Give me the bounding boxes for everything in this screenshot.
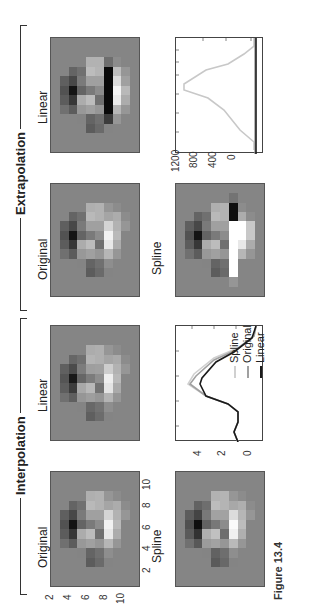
heatmap-cell <box>121 548 130 558</box>
heatmap-cell <box>104 203 113 212</box>
heatmap-cell <box>202 212 211 221</box>
heatmap-cell <box>220 287 229 296</box>
heatmap-cell <box>220 231 229 240</box>
heatmap-cell <box>194 249 203 258</box>
heatmap-cell <box>121 268 130 277</box>
heatmap-cell <box>121 76 130 86</box>
heatmap-cell <box>69 364 78 374</box>
heatmap-cell <box>69 345 78 355</box>
y-tick: 2 <box>44 594 55 600</box>
heatmap-cell <box>95 277 104 286</box>
heatmap-cell <box>194 510 203 520</box>
heatmap-cell <box>121 558 130 568</box>
heatmap-cell <box>211 501 220 511</box>
heatmap-cell <box>60 577 69 587</box>
heatmap-cell <box>104 355 113 365</box>
heatmap-cell <box>130 326 139 336</box>
heatmap-cell <box>176 221 185 230</box>
heatmap-cell <box>77 393 86 403</box>
heatmap-cell <box>69 114 78 124</box>
heatmap-cell <box>246 221 255 230</box>
heatmap-cell <box>104 567 113 577</box>
heatmap-cell <box>130 67 139 77</box>
heatmap-cell <box>211 472 220 482</box>
heatmap-cell <box>229 501 238 511</box>
heatmap-cell <box>229 249 238 258</box>
heatmap-cell <box>176 482 185 492</box>
heatmap-cell <box>238 221 247 230</box>
heatmap-cell <box>176 212 185 221</box>
heatmap-cell <box>229 268 238 277</box>
heatmap-cell <box>185 510 194 520</box>
heatmap-cell <box>51 577 60 587</box>
heatmap-cell <box>194 491 203 501</box>
heatmap-cell <box>194 539 203 549</box>
heatmap-cell <box>194 193 203 202</box>
heatmap-cell <box>51 520 60 530</box>
heatmap-cell <box>95 249 104 258</box>
heatmap-cell <box>95 558 104 568</box>
heatmap-cell <box>113 38 122 48</box>
heatmap-cell <box>86 383 95 393</box>
heatmap-cell <box>95 431 104 441</box>
heatmap-cell <box>60 105 69 115</box>
heatmap-cell <box>60 402 69 412</box>
heatmap-cell <box>130 345 139 355</box>
heatmap-cell <box>69 249 78 258</box>
heatmap-cell <box>185 482 194 492</box>
heatmap-cell <box>104 231 113 240</box>
heatmap-cell <box>104 529 113 539</box>
heatmap-cell <box>95 133 104 143</box>
heatmap-cell <box>77 67 86 77</box>
heatmap-cell <box>113 95 122 105</box>
heatmap-cell <box>220 491 229 501</box>
panel-label-interp-spline: Spline <box>150 530 164 563</box>
heatmap-cell <box>77 383 86 393</box>
heatmap-cell <box>113 231 122 240</box>
heatmap-cell <box>246 482 255 492</box>
heatmap-cell <box>60 501 69 511</box>
heatmap-cell <box>95 143 104 153</box>
heatmap-cell <box>130 95 139 105</box>
heatmap-cell <box>113 249 122 258</box>
heatmap-cell <box>104 374 113 384</box>
heatmap-cell <box>246 193 255 202</box>
heatmap-cell <box>77 240 86 249</box>
heatmap-cell <box>121 539 130 549</box>
heatmap-cell <box>130 133 139 143</box>
heatmap-cell <box>185 539 194 549</box>
heatmap-cell <box>130 231 139 240</box>
heatmap-cell <box>246 268 255 277</box>
heatmap-cell <box>220 268 229 277</box>
heatmap-cell <box>104 95 113 105</box>
heatmap-cell <box>121 259 130 268</box>
heatmap-cell <box>51 193 60 202</box>
heatmap-cell <box>211 567 220 577</box>
heatmap-cell <box>185 577 194 587</box>
heatmap-cell <box>229 548 238 558</box>
heatmap-cell <box>69 402 78 412</box>
heatmap-cell <box>176 277 185 286</box>
heatmap-cell <box>185 520 194 530</box>
heatmap-cell <box>238 193 247 202</box>
heatmap-cell <box>130 212 139 221</box>
heatmap-cell <box>194 268 203 277</box>
heatmap-cell <box>202 268 211 277</box>
heatmap-cell <box>130 277 139 286</box>
heatmap-cell <box>77 431 86 441</box>
heatmap-cell <box>95 38 104 48</box>
heatmap-cell <box>246 277 255 286</box>
heatmap-cell <box>60 548 69 558</box>
heatmap-cell <box>202 520 211 530</box>
heatmap-cell <box>121 95 130 105</box>
heatmap-cell <box>77 501 86 511</box>
heatmap-cell <box>121 510 130 520</box>
heatmap-cell <box>60 221 69 230</box>
heatmap-cell <box>60 383 69 393</box>
heatmap-cell <box>229 577 238 587</box>
heatmap-cell <box>130 114 139 124</box>
heatmap-cell <box>255 529 264 539</box>
legend-item-spline: Spline <box>228 325 241 378</box>
heatmap-cell <box>86 67 95 77</box>
y-tick: 6 <box>80 594 91 600</box>
